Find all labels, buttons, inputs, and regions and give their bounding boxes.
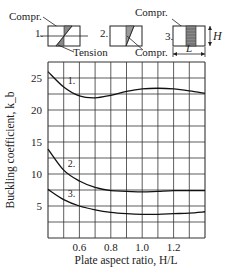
x-tick-label: 1.2 (167, 241, 181, 253)
case1-number: 1. (35, 27, 44, 39)
y-tick-label: 15 (31, 136, 43, 148)
case1-compr-label: Compr. (9, 10, 42, 22)
y-tick-label: 25 (31, 72, 43, 84)
case3-height-label: H (212, 29, 223, 43)
curve-label-3: 3. (68, 188, 76, 199)
case3-length-label: L (185, 42, 192, 54)
y-tick-label: 5 (37, 200, 43, 212)
case2-number: 2. (100, 27, 109, 39)
case2-compr-label: Compr. (135, 46, 168, 58)
case3-compr-label: Compr. (135, 6, 168, 18)
buckling-chart: Compr. 1. Tension 2. Compr. Compr. 3. H (0, 0, 233, 278)
x-tick-label: 0.8 (104, 241, 118, 253)
x-tick-label: 0.6 (73, 241, 87, 253)
case1-tension-label: Tension (73, 46, 108, 58)
y-tick-label: 10 (31, 168, 43, 180)
case-diagrams: Compr. 1. Tension 2. Compr. Compr. 3. H (9, 6, 223, 58)
y-tick-label: 20 (31, 104, 43, 116)
x-tick-label: 1.0 (135, 241, 149, 253)
curve-label-2: 2. (68, 158, 76, 169)
y-axis-label: Buckling coefficient, k_b (4, 91, 17, 208)
curve-label-1: 1. (68, 75, 76, 86)
case3-number: 3. (165, 30, 174, 42)
x-axis-label: Plate aspect ratio, H/L (75, 254, 178, 267)
plot-grid (48, 62, 205, 238)
